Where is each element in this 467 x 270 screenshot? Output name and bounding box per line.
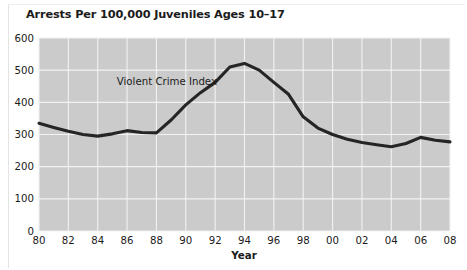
x-tick-label: 90 xyxy=(179,235,192,246)
x-tick-label: 04 xyxy=(385,235,398,246)
y-tick-label: 100 xyxy=(15,193,34,204)
y-tick-label: 600 xyxy=(15,33,34,44)
series-annotation-label: Violent Crime Index xyxy=(117,76,217,87)
x-tick-label: 82 xyxy=(62,235,75,246)
y-tick-label: 300 xyxy=(15,129,34,140)
x-tick-label: 02 xyxy=(355,235,368,246)
x-tick-label: 84 xyxy=(91,235,104,246)
x-tick-label: 92 xyxy=(209,235,222,246)
x-tick-label: 98 xyxy=(297,235,310,246)
y-tick-label: 200 xyxy=(15,161,34,172)
x-tick-label: 94 xyxy=(238,235,251,246)
x-tick-label: 96 xyxy=(267,235,280,246)
x-tick-label: 08 xyxy=(444,235,457,246)
x-tick-label: 06 xyxy=(414,235,427,246)
x-tick-label: 00 xyxy=(326,235,339,246)
x-tick-label: 80 xyxy=(33,235,46,246)
x-axis-tick-labels: 808284868890929496980002040608 xyxy=(33,235,457,246)
y-tick-label: 400 xyxy=(15,97,34,108)
y-axis-tick-labels: 0100200300400500600 xyxy=(15,33,34,237)
chart-svg: 0100200300400500600 80828486889092949698… xyxy=(0,0,467,270)
x-axis-title: Year xyxy=(230,249,257,261)
y-tick-label: 500 xyxy=(15,65,34,76)
chart-annotations: Violent Crime Index xyxy=(117,76,217,87)
x-tick-label: 86 xyxy=(121,235,134,246)
chart-figure: 0100200300400500600 80828486889092949698… xyxy=(0,0,467,270)
x-tick-label: 88 xyxy=(150,235,163,246)
